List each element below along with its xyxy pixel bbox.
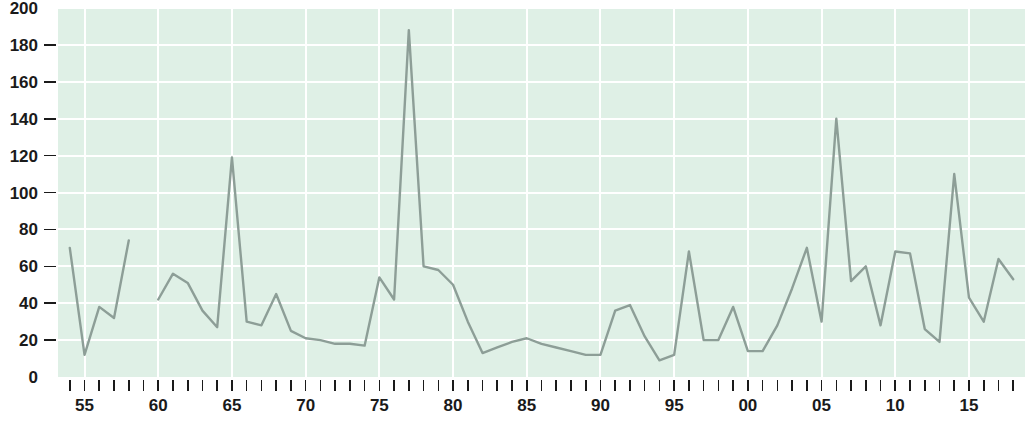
x-tick-label: 10 <box>886 396 905 415</box>
y-tick-label: 140 <box>10 110 38 129</box>
y-tick-label: 120 <box>10 147 38 166</box>
x-tick-label: 65 <box>222 396 241 415</box>
x-tick-label: 95 <box>665 396 684 415</box>
y-axis-ticks <box>44 45 56 340</box>
x-axis-labels: 55606570758085909500051015 <box>75 396 978 415</box>
y-tick-label: 40 <box>19 294 38 313</box>
x-tick-label: 00 <box>738 396 757 415</box>
x-tick-label: 85 <box>517 396 536 415</box>
x-tick-label: 80 <box>444 396 463 415</box>
x-tick-label: 90 <box>591 396 610 415</box>
line-chart: 020406080100120140160180200 556065707580… <box>0 0 1025 430</box>
y-tick-label: 100 <box>10 184 38 203</box>
y-tick-label: 20 <box>19 331 38 350</box>
x-tick-label: 55 <box>75 396 94 415</box>
x-tick-label: 75 <box>370 396 389 415</box>
x-tick-label: 15 <box>960 396 979 415</box>
y-tick-label: 80 <box>19 220 38 239</box>
x-tick-label: 05 <box>812 396 831 415</box>
y-tick-label: 160 <box>10 73 38 92</box>
x-axis-ticks <box>70 380 1013 391</box>
y-axis-labels: 020406080100120140160180200 <box>10 0 38 387</box>
y-tick-label: 0 <box>29 368 38 387</box>
y-tick-label: 180 <box>10 36 38 55</box>
x-tick-label: 70 <box>296 396 315 415</box>
chart-container: 020406080100120140160180200 556065707580… <box>0 0 1025 430</box>
x-tick-label: 60 <box>149 396 168 415</box>
y-tick-label: 200 <box>10 0 38 18</box>
y-tick-label: 60 <box>19 257 38 276</box>
